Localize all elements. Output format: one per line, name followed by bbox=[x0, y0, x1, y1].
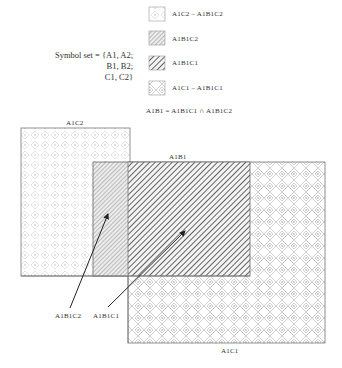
symbol-set-line-2: B1, B2; bbox=[10, 61, 133, 72]
symbol-set-line-3: C1, C2} bbox=[10, 72, 133, 83]
legend-swatch-a1b1c2 bbox=[149, 31, 165, 45]
label-a1c2: A1C2 bbox=[66, 119, 84, 127]
legend-swatch-a1c2-minus bbox=[149, 7, 165, 21]
legend-label-a1c2-minus: A1C2 – A1B1C2 bbox=[172, 10, 223, 18]
label-a1b1c1: A1B1C1 bbox=[93, 312, 119, 320]
symbol-set-line-1: Symbol set = {A1, A2; bbox=[10, 50, 133, 61]
symbol-set: Symbol set = {A1, A2; B1, B2; C1, C2} bbox=[10, 50, 133, 83]
legend-formula: A1B1 = A1B1C1 ∩ A1B1C2 bbox=[146, 107, 232, 115]
legend-label-a1b1c2: A1B1C2 bbox=[172, 35, 198, 43]
label-a1b1: A1B1 bbox=[169, 153, 187, 161]
region-a1b1c2 bbox=[93, 162, 128, 276]
legend-swatch-a1c1-minus bbox=[149, 81, 165, 95]
label-a1c1: A1C1 bbox=[221, 347, 239, 355]
legend-label-a1b1c1: A1B1C1 bbox=[172, 59, 198, 67]
legend-label-a1c1-minus: A1C1 – A1B1C1 bbox=[172, 84, 223, 92]
label-a1b1c2: A1B1C2 bbox=[55, 312, 81, 320]
legend-swatch-a1b1c1 bbox=[149, 56, 165, 70]
region-a1b1c1 bbox=[128, 162, 250, 276]
legend bbox=[149, 7, 165, 95]
